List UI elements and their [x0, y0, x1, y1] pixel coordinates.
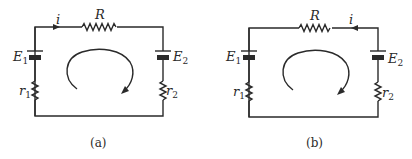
internal-r1-sub: 1 — [25, 90, 31, 100]
battery-E1-short-plate — [29, 55, 41, 60]
resistor-R-icon — [82, 24, 116, 31]
emf-E1-symbol: E — [226, 49, 236, 64]
internal-r1-label: r1 — [19, 84, 31, 100]
emf-E2-symbol: E — [173, 49, 183, 64]
battery-E2-short-plate — [157, 55, 169, 60]
emf-E2-symbol: E — [388, 51, 398, 66]
emf-E1-label: E1 — [226, 50, 241, 66]
resistor-r1-icon — [32, 81, 38, 100]
circuit-figure-b: i R E1 E2 r1 r2 (b) — [206, 0, 412, 159]
loop-arc — [283, 50, 349, 92]
emf-E2-label: E2 — [388, 52, 403, 68]
emf-E1-sub: 1 — [23, 56, 29, 66]
top-wire — [35, 27, 82, 116]
emf-E2-sub: 2 — [183, 56, 189, 66]
figure-caption: (a) — [90, 137, 107, 149]
top-wire — [249, 28, 299, 117]
emf-E1-label: E1 — [13, 50, 28, 66]
resistor-R-label: R — [95, 8, 105, 21]
internal-r2-sub: 2 — [388, 92, 394, 102]
internal-r2-label: r2 — [382, 86, 394, 102]
current-label: i — [56, 13, 60, 26]
resistor-r2-icon — [375, 82, 381, 101]
battery-E2-short-plate — [372, 55, 384, 60]
internal-r2-sub: 2 — [172, 90, 178, 100]
resistor-r1-icon — [246, 82, 252, 101]
resistor-R-icon — [299, 25, 330, 32]
emf-E2-label: E2 — [173, 50, 188, 66]
circuit-figure-a: i R E1 E2 r1 r2 (a) — [0, 0, 206, 159]
current-label: i — [349, 13, 353, 26]
emf-E1-sub: 1 — [236, 56, 242, 66]
emf-E2-sub: 2 — [398, 58, 404, 68]
figure-caption: (b) — [306, 137, 323, 149]
emf-E1-symbol: E — [13, 49, 23, 64]
loop-arc — [67, 49, 133, 91]
internal-r2-label: r2 — [166, 84, 178, 100]
battery-E1-short-plate — [243, 55, 255, 60]
internal-r1-sub: 1 — [239, 91, 245, 101]
internal-r1-label: r1 — [233, 85, 245, 101]
resistor-R-label: R — [310, 9, 320, 22]
